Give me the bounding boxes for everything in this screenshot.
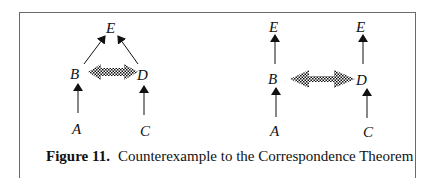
node-a: A: [71, 121, 82, 137]
figure-caption-text: Counterexample to the Correspondence The…: [118, 148, 413, 164]
node-d: D: [136, 67, 148, 83]
node-b: B: [268, 71, 277, 87]
checkered-double-arrow-icon: [88, 64, 138, 80]
node-d: D: [355, 72, 367, 88]
node-e: E: [105, 20, 115, 36]
node-c: C: [140, 123, 151, 139]
node-a: A: [269, 123, 280, 139]
left-diagram: E B D A C: [70, 20, 151, 139]
edge-b-to-e: [84, 36, 105, 64]
edge-d-to-e: [118, 36, 138, 64]
node-e-left: E: [268, 19, 278, 35]
node-b: B: [70, 66, 79, 82]
right-diagram: E E B D A C: [268, 19, 374, 140]
checkered-double-arrow-icon: [290, 70, 355, 88]
figure-number: Figure 11.: [46, 148, 110, 164]
node-c: C: [363, 124, 374, 140]
figure-caption: Figure 11.Counterexample to the Correspo…: [46, 148, 413, 165]
node-e-right: E: [355, 19, 365, 35]
